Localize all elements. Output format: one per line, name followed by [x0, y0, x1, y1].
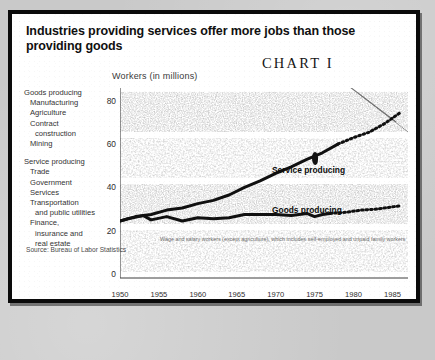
x-tick-label: 1970	[267, 290, 284, 299]
y-axis-tick-labels: 020406080	[98, 88, 116, 284]
footnote: Wage and salary workers (except agricult…	[160, 236, 408, 243]
x-tick-label: 1980	[345, 290, 362, 299]
plot-noise-bands	[120, 88, 408, 284]
y-axis-title: Workers (in millions)	[112, 71, 198, 81]
y-tick-label: 60	[107, 139, 116, 149]
series-label-goods-line1: Goods producing	[272, 206, 342, 216]
series-label-goods: Goods producing	[272, 206, 342, 216]
y-tick-label: 80	[107, 96, 116, 106]
x-tick-label: 1955	[150, 290, 167, 299]
ink-blotch-artifact	[312, 152, 318, 165]
series-label-service: Service producing	[272, 166, 345, 176]
source-note: Source: Bureau of Labor Statistics	[26, 246, 126, 253]
x-tick-label: 1975	[306, 290, 323, 299]
x-axis-tick-labels: 19501955196019651970197519801985	[120, 288, 408, 300]
chart-plot-area: Service producing Goods producing	[120, 88, 408, 284]
series-label-service-line1: Service producing	[272, 166, 345, 176]
chart-number-label: CHART I	[262, 55, 334, 72]
x-tick-label: 1965	[228, 290, 245, 299]
scanned-page: Industries providing services offer more…	[0, 0, 435, 360]
line-chart-svg	[120, 88, 408, 284]
y-tick-label: 20	[107, 226, 116, 236]
x-tick-label: 1985	[384, 290, 401, 299]
y-tick-label: 0	[111, 269, 116, 279]
y-tick-label: 40	[107, 182, 116, 192]
page-title: Industries providing services offer more…	[26, 24, 356, 54]
x-tick-label: 1950	[112, 290, 129, 299]
x-tick-label: 1960	[189, 290, 206, 299]
chart-sheet: Industries providing services offer more…	[8, 10, 420, 303]
